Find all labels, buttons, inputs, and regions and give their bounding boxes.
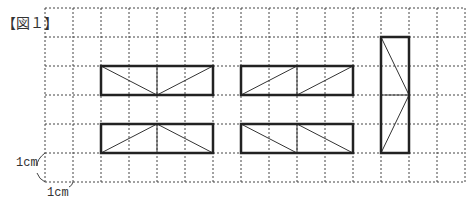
rectangle-d	[241, 124, 353, 153]
unit-label-horizontal: 1cm	[47, 186, 69, 200]
rectangle-c	[241, 66, 353, 95]
rectangle-b	[101, 124, 213, 153]
unit-label-vertical: 1cm	[16, 156, 38, 170]
rectangle-e	[381, 37, 409, 153]
rectangle-a	[101, 66, 213, 95]
figure-label: 【図１】	[2, 12, 58, 32]
figure-diagram	[0, 0, 469, 205]
